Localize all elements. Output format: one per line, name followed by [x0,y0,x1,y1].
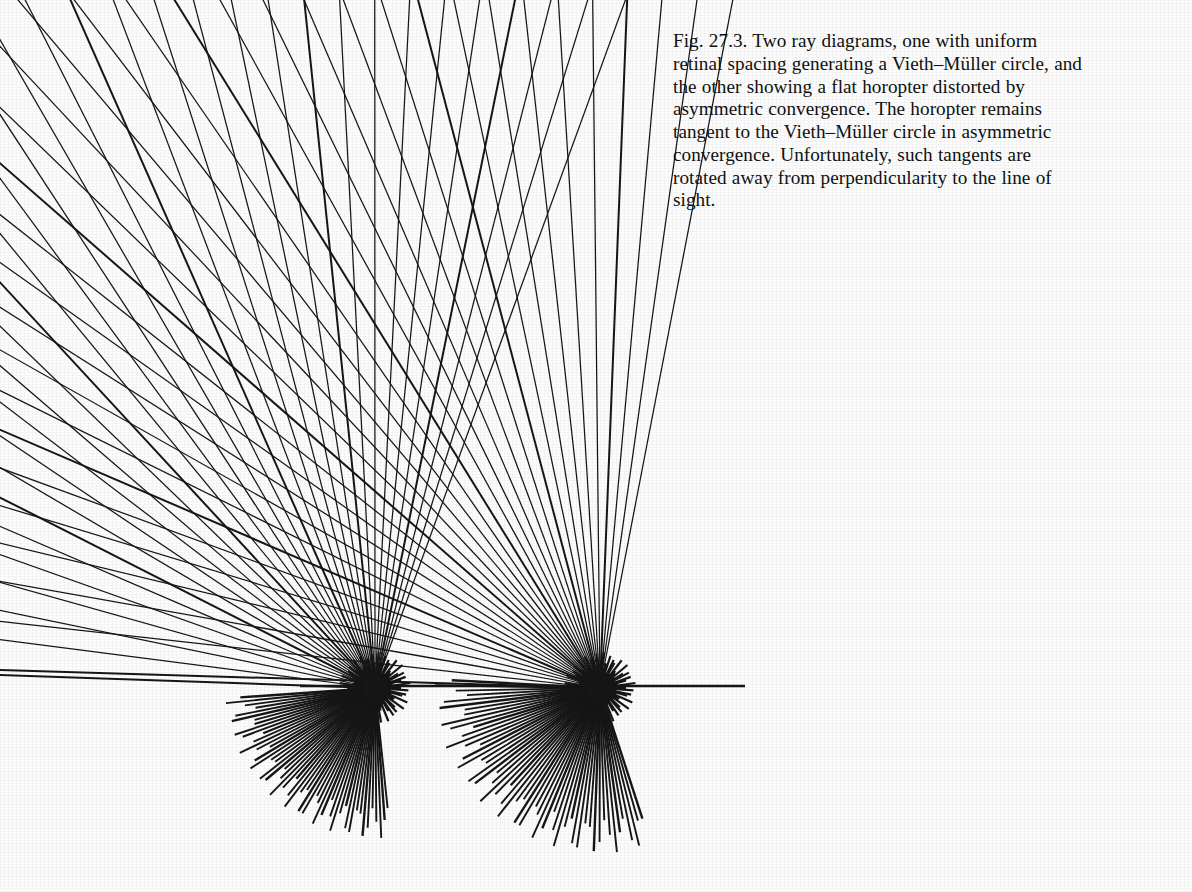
nodal-points [340,652,636,722]
caption-line: rotated away from perpendicularity to th… [673,167,1143,190]
caption-line: asymmetric convergence. The horopter rem… [673,98,1143,121]
left-ray [0,308,375,688]
right-eye-node [587,675,613,701]
right-ray [600,0,654,688]
left-ray [374,0,375,688]
right-ray [0,639,600,688]
caption-line: Fig. 27.3. Two ray diagrams, one with un… [673,30,1143,53]
right-ray [0,134,600,688]
right-ray [0,54,600,688]
caption-line: the other showing a flat horopter distor… [673,76,1143,99]
caption-line: tangent to the Vieth–Müller circle in as… [673,121,1143,144]
left-eye-node [362,675,388,701]
caption-line: sight. [673,189,1143,212]
caption-line: convergence. Unfortunately, such tangent… [673,144,1143,167]
caption-line: retinal spacing generating a Vieth–Mülle… [673,53,1143,76]
figure-caption: Fig. 27.3. Two ray diagrams, one with un… [673,30,1143,212]
left-retinal-fan [226,688,388,838]
right-ray [374,0,600,688]
figure-page: Fig. 27.3. Two ray diagrams, one with un… [0,0,1192,892]
left-ray [0,134,375,688]
left-ray [89,0,375,688]
